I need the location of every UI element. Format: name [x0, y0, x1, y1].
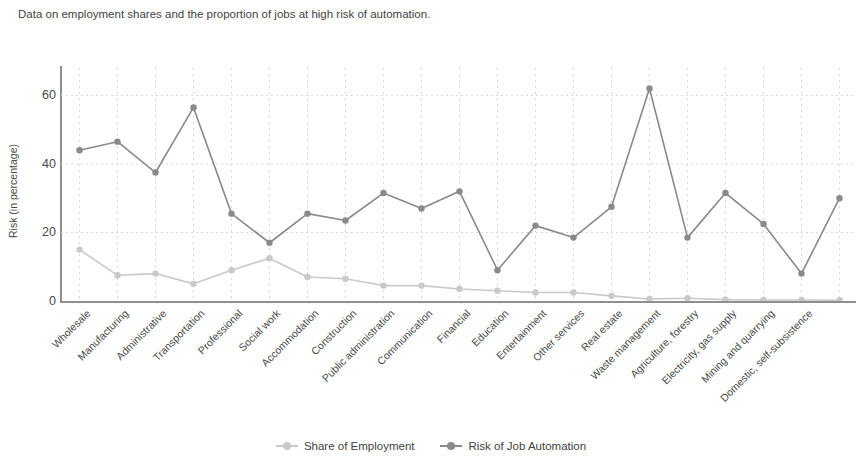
data-point [152, 169, 158, 175]
x-tick-label: Mining and quarrying [698, 307, 776, 385]
data-point [836, 297, 842, 301]
data-point [836, 195, 842, 201]
x-tick-label: Agriculture, forestry [627, 307, 700, 380]
series-line-share [80, 250, 840, 301]
data-point [570, 234, 576, 240]
data-point [190, 104, 196, 110]
data-point [76, 246, 82, 252]
data-point [456, 188, 462, 194]
data-point [798, 270, 804, 276]
data-point [418, 205, 424, 211]
data-point [76, 147, 82, 153]
legend-marker-icon [440, 445, 462, 447]
data-point [152, 270, 158, 276]
legend-marker-icon [276, 445, 298, 447]
x-tick-label: Electricity, gas supply [659, 307, 738, 386]
legend-label: Share of Employment [304, 440, 415, 452]
data-point [228, 267, 234, 273]
plot-canvas [61, 68, 856, 301]
chart-figure: 0204060 Risk (in percentage) WholesaleMa… [0, 0, 862, 464]
data-point [494, 267, 500, 273]
y-tick-label: 60 [22, 88, 56, 102]
chart-legend: Share of EmploymentRisk of Job Automatio… [0, 440, 862, 452]
data-point [342, 276, 348, 282]
x-tick-label: Financial [434, 307, 472, 345]
data-point [760, 221, 766, 227]
data-point [266, 240, 272, 246]
y-tick-label: 0 [22, 294, 56, 308]
data-point [722, 190, 728, 196]
data-point [684, 234, 690, 240]
data-point [684, 295, 690, 301]
y-axis-label: Risk (in percentage) [7, 116, 19, 266]
data-point [608, 204, 614, 210]
data-point [380, 190, 386, 196]
y-tick-label: 40 [22, 157, 56, 171]
data-point [646, 296, 652, 301]
data-point [798, 297, 804, 301]
x-tick-label: Public administration [319, 307, 396, 384]
data-point [114, 138, 120, 144]
data-point [722, 296, 728, 301]
y-tick-label: 20 [22, 225, 56, 239]
legend-item[interactable]: Risk of Job Automation [440, 440, 586, 452]
data-point [532, 289, 538, 295]
x-axis-line [60, 301, 856, 303]
data-point [418, 282, 424, 288]
data-point [304, 210, 310, 216]
data-point [494, 288, 500, 294]
data-point [266, 255, 272, 261]
chart-svg [61, 68, 856, 301]
data-point [114, 272, 120, 278]
data-point [190, 281, 196, 287]
y-axis-ticks: 0204060 [14, 0, 56, 464]
legend-label: Risk of Job Automation [468, 440, 586, 452]
data-point [304, 274, 310, 280]
data-point [380, 282, 386, 288]
legend-item[interactable]: Share of Employment [276, 440, 415, 452]
data-point [456, 286, 462, 292]
data-point [608, 293, 614, 299]
x-tick-label: Waste management [587, 307, 662, 382]
data-point [760, 297, 766, 301]
data-point [532, 222, 538, 228]
data-point [342, 217, 348, 223]
data-point [228, 210, 234, 216]
data-point [570, 289, 576, 295]
data-point [646, 85, 652, 91]
